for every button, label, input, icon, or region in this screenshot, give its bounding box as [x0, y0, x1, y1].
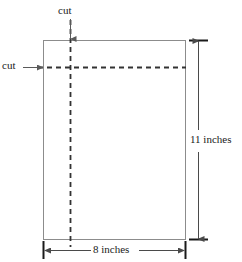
cut-top-label: cut — [58, 5, 71, 16]
width-dimension-label: 8 inches — [93, 244, 129, 255]
height-dimension-label: 11 inches — [190, 134, 231, 145]
paper-cut-diagram: cut cut 11 inches 8 inches — [0, 0, 242, 262]
diagram-canvas — [0, 0, 242, 262]
cut-left-label: cut — [2, 60, 15, 71]
sheet-of-paper — [44, 41, 186, 240]
